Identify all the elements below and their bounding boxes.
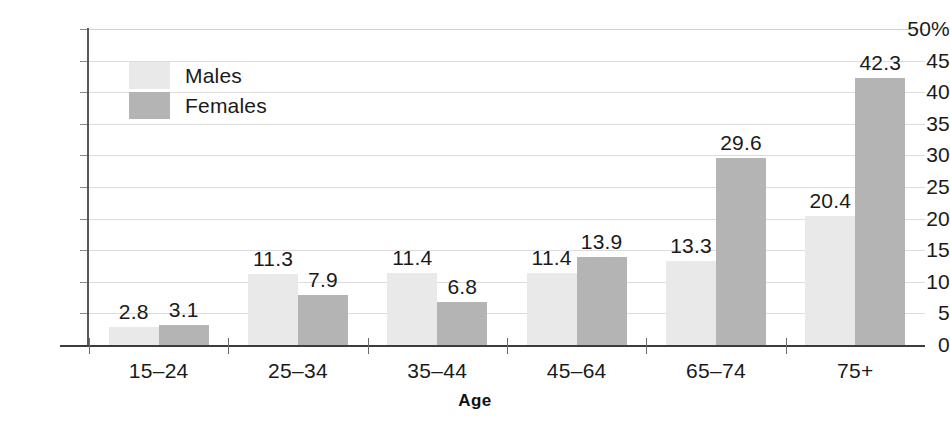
legend-swatch-females [129, 92, 170, 119]
bar-females-15-24 [159, 325, 209, 345]
bar-females-35-44 [437, 302, 487, 345]
bar-females-65-74 [716, 158, 766, 345]
bar-females-25-34 [298, 295, 348, 345]
bar-males-65-74 [666, 261, 716, 345]
x-tick-label: 35–44 [368, 360, 507, 382]
bar-females-75+ [855, 78, 905, 345]
x-tick-mark [368, 338, 369, 354]
bar-females-45-64 [577, 257, 627, 345]
x-tick-label: 45–64 [507, 360, 646, 382]
x-tick-label: 65–74 [646, 360, 785, 382]
x-axis-line [60, 345, 925, 347]
bar-males-15-24 [109, 327, 159, 345]
x-tick-label: 15–24 [89, 360, 228, 382]
x-tick-mark [646, 338, 647, 354]
bar-value-label: 42.3 [838, 52, 922, 73]
bar-males-75+ [805, 216, 855, 345]
legend: MalesFemales [129, 60, 267, 120]
legend-swatch-males [129, 62, 170, 89]
legend-item-males: Males [129, 60, 267, 90]
bars-layer: 2.83.111.37.911.46.811.413.913.329.620.4… [0, 0, 950, 345]
x-tick-mark [786, 338, 787, 354]
bar-value-label: 11.3 [231, 248, 315, 269]
bar-chart: 05101520253035404550% 2.83.111.37.911.46… [0, 0, 950, 428]
legend-item-females: Females [129, 90, 267, 120]
bar-value-label: 11.4 [370, 247, 454, 268]
bar-value-label: 6.8 [420, 276, 504, 297]
x-tick-mark [228, 338, 229, 354]
bar-value-label: 29.6 [699, 132, 783, 153]
bar-value-label: 7.9 [281, 269, 365, 290]
x-tick-label: 25–34 [228, 360, 367, 382]
bar-value-label: 13.9 [560, 231, 644, 252]
x-axis-title: Age [0, 391, 950, 411]
x-tick-label: 75+ [786, 360, 925, 382]
bar-value-label: 3.1 [142, 299, 226, 320]
x-tick-mark [89, 338, 90, 354]
bar-males-45-64 [527, 273, 577, 345]
legend-label: Females [185, 95, 267, 116]
legend-label: Males [185, 65, 242, 86]
x-tick-mark [507, 338, 508, 354]
